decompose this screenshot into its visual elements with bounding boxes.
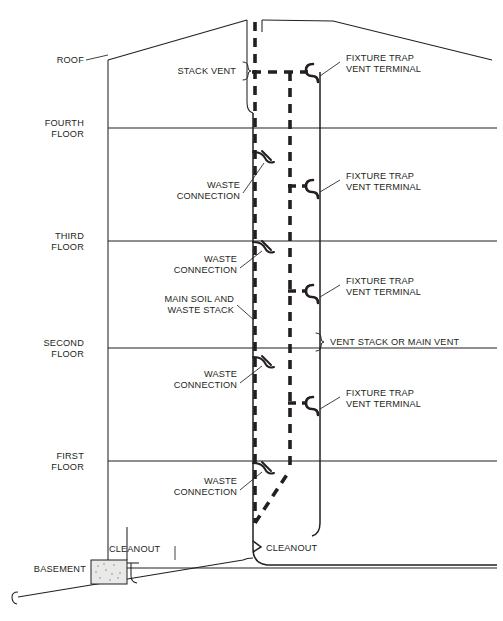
callout-wc-second-line1: WASTE: [204, 369, 237, 379]
floor-label-third-line2: FLOOR: [51, 242, 84, 252]
callout-ftvt-roof-line1: FIXTURE TRAP: [346, 53, 414, 63]
fixture-trap-vent-terminal-fourth: [288, 180, 318, 198]
callout-cleanout-left: CLEANOUT: [109, 544, 160, 554]
leader-roof: [86, 55, 108, 60]
callout-wc-first-line2: CONNECTION: [174, 487, 237, 497]
floor-label-basement: BASEMENT: [34, 564, 86, 574]
vent-base-connection-dashed: [255, 470, 290, 523]
callout-cleanout-right: CLEANOUT: [266, 543, 317, 553]
callout-main-stack-line2: WASTE STACK: [168, 305, 235, 315]
callout-ftvt-second-line2: VENT TERMINAL: [346, 399, 421, 409]
trap-hook-icon: [306, 397, 318, 415]
callout-wc-first-line1: WASTE: [204, 476, 237, 486]
callout-wc-fourth-line2: CONNECTION: [177, 191, 240, 201]
floor-label-second-line2: FLOOR: [51, 349, 84, 359]
cleanouts: [91, 527, 261, 584]
callout-wc-third-line2: CONNECTION: [174, 265, 237, 275]
floor-lines: [108, 128, 497, 568]
dashed-vent-piping: [252, 22, 308, 523]
callout-wc-second-line2: CONNECTION: [174, 380, 237, 390]
floor-label-fourth-line1: FOURTH: [45, 118, 84, 128]
fixture-trap-vent-terminal-third: [288, 285, 318, 303]
callout-main-stack-line1: MAIN SOIL AND: [164, 294, 234, 304]
cleanout-right: [253, 541, 261, 552]
callout-ftvt-third-line2: VENT TERMINAL: [346, 287, 421, 297]
trap-hook-icon: [306, 285, 318, 303]
callout-ftvt-second-line1: FIXTURE TRAP: [346, 388, 414, 398]
building-sewer-end-hook: [12, 592, 18, 604]
callout-vent-stack-or-main-vent: VENT STACK OR MAIN VENT: [330, 337, 459, 347]
trap-hook-icon: [306, 64, 318, 82]
floor-label-first-line1: FIRST: [56, 451, 84, 461]
leader-ftvt-fourth: [320, 180, 340, 192]
leader-wc-third: [240, 251, 262, 268]
leader-ftvt-second: [320, 397, 340, 409]
callout-stack-vent: STACK VENT: [177, 66, 236, 76]
callout-ftvt-third-line1: FIXTURE TRAP: [346, 276, 414, 286]
leader-ftvt-roof: [320, 62, 340, 76]
fixture-trap-vent-terminal-symbols: [288, 64, 318, 415]
leader-wc-second: [240, 366, 262, 383]
cleanout-left-elbow: [131, 563, 137, 583]
floor-label-fourth-line2: FLOOR: [51, 129, 84, 139]
trap-hook-icon: [306, 180, 318, 198]
leader-main-soil-stack: [237, 305, 254, 320]
callout-wc-fourth-line1: WASTE: [207, 180, 240, 190]
floor-label-second-line1: SECOND: [43, 338, 84, 348]
callout-ftvt-fourth-line2: VENT TERMINAL: [346, 182, 421, 192]
plumbing-riser-diagram: ROOF FOURTH FLOOR THIRD FLOOR SECOND FLO…: [0, 0, 503, 621]
callout-ftvt-roof-line2: VENT TERMINAL: [346, 64, 421, 74]
floor-label-roof: ROOF: [57, 55, 85, 65]
floor-label-third-line1: THIRD: [55, 231, 84, 241]
leader-wc-first: [240, 472, 262, 490]
stack-vent-roof-penetration: [247, 20, 262, 113]
callout-ftvt-fourth-line1: FIXTURE TRAP: [346, 171, 414, 181]
leader-ftvt-third: [320, 285, 340, 297]
fixture-trap-vent-terminal-second: [288, 397, 318, 415]
callout-wc-third-line1: WASTE: [204, 254, 237, 264]
floor-label-first-line2: FLOOR: [51, 462, 84, 472]
cleanout-right-arrow-icon: [253, 541, 261, 552]
fixture-trap-vent-terminal-roof: [306, 64, 318, 82]
roof-left-slope: [108, 20, 247, 60]
plumbing-diagram-root: ROOF FOURTH FLOOR THIRD FLOOR SECOND FLO…: [0, 0, 503, 621]
